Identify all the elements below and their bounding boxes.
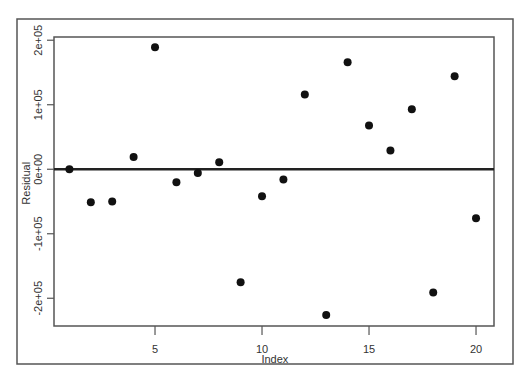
data-point bbox=[151, 43, 159, 51]
data-point bbox=[301, 90, 309, 98]
y-tick-label: -1e+05 bbox=[32, 216, 44, 251]
data-point bbox=[279, 176, 287, 184]
x-axis-title: Index bbox=[261, 353, 288, 365]
y-axis-title: Residual bbox=[20, 162, 32, 205]
residual-plot: -2e+05-1e+050e+001e+052e+05 5101520 Inde… bbox=[0, 0, 529, 381]
x-tick-label: 20 bbox=[470, 343, 482, 355]
x-axis: 5101520 bbox=[152, 326, 482, 355]
x-tick-label: 5 bbox=[152, 343, 158, 355]
data-point bbox=[108, 197, 116, 205]
y-tick-label: 0e+00 bbox=[32, 154, 44, 185]
y-axis: -2e+05-1e+050e+001e+052e+05 bbox=[32, 25, 54, 316]
y-tick-label: -2e+05 bbox=[32, 281, 44, 316]
plot-area bbox=[54, 37, 494, 326]
data-point bbox=[65, 165, 73, 173]
data-point bbox=[472, 214, 480, 222]
data-point bbox=[172, 178, 180, 186]
y-tick-label: 2e+05 bbox=[32, 25, 44, 56]
data-point bbox=[386, 147, 394, 155]
y-tick-label: 1e+05 bbox=[32, 89, 44, 120]
data-point bbox=[215, 158, 223, 166]
x-tick-label: 15 bbox=[363, 343, 375, 355]
data-point bbox=[322, 311, 330, 319]
data-point bbox=[365, 121, 373, 129]
data-point bbox=[344, 58, 352, 66]
data-point bbox=[429, 288, 437, 296]
data-point bbox=[237, 278, 245, 286]
data-point bbox=[194, 169, 202, 177]
data-point bbox=[408, 105, 416, 113]
data-points bbox=[65, 43, 480, 319]
data-point bbox=[87, 198, 95, 206]
data-point bbox=[451, 72, 459, 80]
data-point bbox=[258, 192, 266, 200]
data-point bbox=[130, 153, 138, 161]
figure-border bbox=[17, 19, 513, 364]
